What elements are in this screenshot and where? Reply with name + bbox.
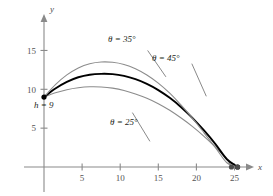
trajectory-plot: 510152025 51015 y x h = 9 θ = 35° θ = 45…: [0, 0, 273, 196]
height-annotation: h = 9: [34, 100, 54, 110]
x-tick-labels-group: 510152025: [80, 173, 240, 183]
landing-marker-25deg: [229, 164, 234, 169]
trajectory-curve-25deg: [44, 87, 231, 167]
landing-marker-35deg: [235, 164, 240, 169]
x-tick-label-20: 20: [192, 173, 202, 183]
theta-25-annotation: θ = 25°: [110, 117, 138, 127]
trajectory-curve-45deg: [44, 74, 238, 167]
tick-marks-group: [41, 50, 235, 170]
x-tick-label-5: 5: [80, 173, 85, 183]
axes-group: [24, 14, 254, 192]
y-axis-label: y: [49, 4, 54, 14]
theta-35-annotation: θ = 35°: [108, 34, 136, 44]
x-tick-label-10: 10: [116, 173, 126, 183]
figure-projectile-trajectories: 510152025 51015 y x h = 9 θ = 35° θ = 45…: [0, 0, 273, 196]
leader-line-45deg: [192, 64, 206, 97]
x-tick-label-15: 15: [154, 173, 164, 183]
y-tick-label-15: 15: [27, 46, 37, 56]
theta-45-annotation: θ = 45°: [152, 53, 180, 63]
x-tick-label-25: 25: [230, 173, 240, 183]
launch-point-marker: [41, 94, 46, 99]
y-tick-labels-group: 51015: [27, 46, 37, 134]
y-axis-arrowhead: [41, 14, 48, 22]
trajectory-curve-35deg: [44, 62, 238, 167]
x-axis-arrowhead: [246, 164, 254, 171]
annotation-leader-lines-group: [132, 50, 206, 141]
x-axis-label: x: [257, 162, 262, 172]
y-tick-label-5: 5: [32, 123, 37, 133]
y-tick-label-10: 10: [27, 85, 37, 95]
trajectory-curves-group: [44, 62, 238, 167]
